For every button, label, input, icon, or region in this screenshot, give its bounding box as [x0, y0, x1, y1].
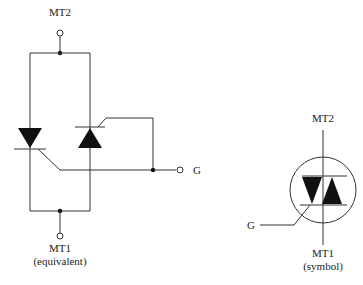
- mt2-label: MT2: [49, 6, 71, 18]
- thyristor-down-icon: [18, 128, 42, 148]
- thyristor-up-icon: [78, 128, 102, 148]
- equivalent-caption: (equivalent): [33, 255, 86, 268]
- junction-dot-icon: [151, 168, 155, 172]
- mt1-label: MT1: [49, 242, 71, 254]
- symbol-mt1-label: MT1: [312, 247, 334, 259]
- equivalent-circuit: [14, 30, 183, 239]
- triangle-up-icon: [322, 177, 342, 204]
- mt2-terminal-icon: [57, 30, 63, 36]
- gate-terminal-icon: [177, 167, 183, 173]
- triangle-down-icon: [302, 177, 322, 204]
- symbol-gate-label: G: [247, 219, 255, 231]
- triac-symbol: [260, 130, 356, 245]
- symbol-caption: (symbol): [303, 260, 343, 273]
- mt1-terminal-icon: [57, 233, 63, 239]
- gate-label: G: [193, 164, 201, 176]
- symbol-mt2-label: MT2: [312, 112, 334, 124]
- triac-diagram: MT2 MT1 (equivalent) G MT2 MT1 (symbol) …: [0, 0, 363, 285]
